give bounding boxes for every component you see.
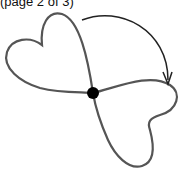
- bottom-right-lobe: [93, 80, 177, 167]
- center-dot: [87, 87, 99, 99]
- top-left-lobe: [6, 13, 93, 93]
- rotation-arrow: [82, 16, 168, 80]
- loop-diagram: [0, 0, 179, 170]
